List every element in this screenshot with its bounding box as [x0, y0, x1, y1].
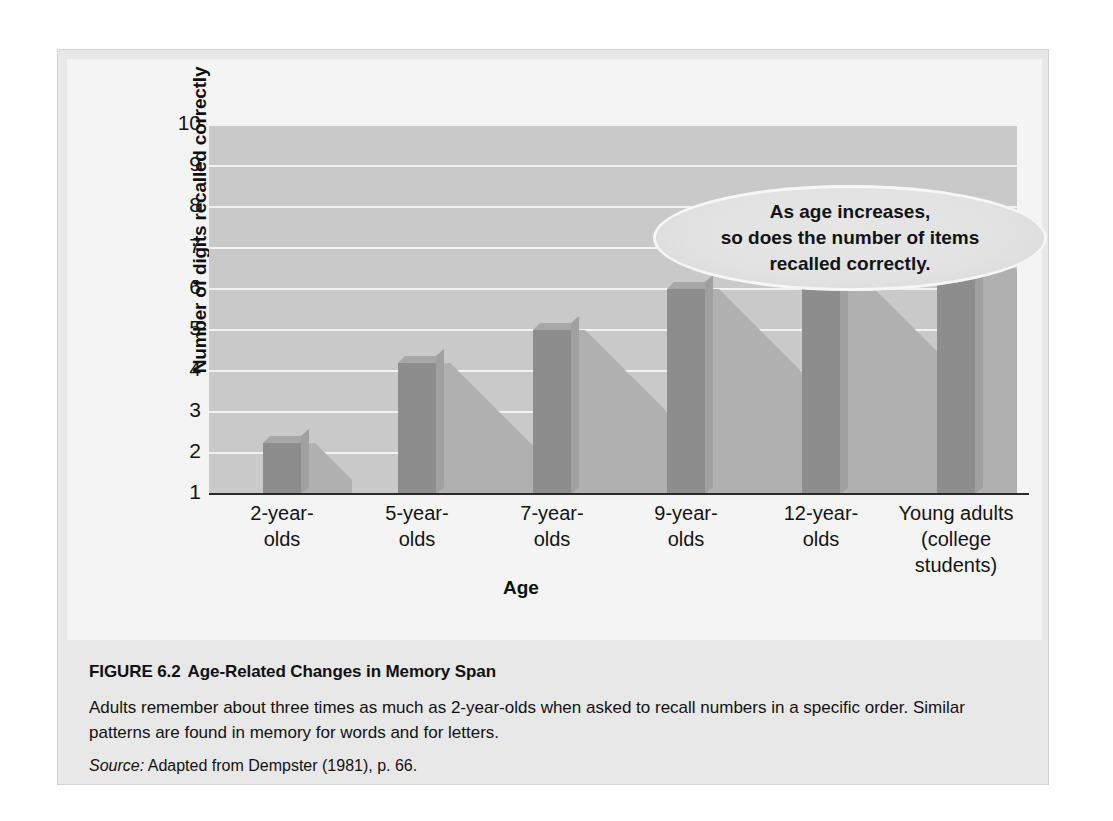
bar-side-face	[436, 349, 444, 494]
figure-caption: FIGURE 6.2Age-Related Changes in Memory …	[67, 648, 1042, 777]
x-axis-line	[209, 493, 1029, 495]
annotation-callout: As age increases, so does the number of …	[653, 185, 1047, 291]
figure-screenshot: Number of digits recalled correctly 1098…	[0, 0, 1113, 821]
gridline	[209, 125, 1017, 126]
y-tick-label: 2	[171, 439, 201, 463]
bar-side-face	[301, 429, 309, 494]
bar	[802, 269, 840, 495]
x-tick-label: Young adults(collegestudents)	[876, 500, 1036, 578]
source-label: Source:	[89, 757, 144, 774]
figure-number: FIGURE 6.2	[89, 662, 181, 681]
y-tick-label: 6	[171, 275, 201, 299]
y-tick-label: 9	[171, 152, 201, 176]
annotation-text: As age increases, so does the number of …	[721, 199, 980, 277]
bar	[533, 330, 571, 494]
x-axis-tick-labels: 2-year-olds5-year-olds7-year-olds9-year-…	[209, 500, 1029, 610]
x-axis-title: Age	[503, 577, 539, 599]
x-tick-label-line: (college	[876, 526, 1036, 552]
y-tick-label: 8	[171, 193, 201, 217]
figure-title: Age-Related Changes in Memory Span	[188, 662, 496, 681]
annotation-line-1: As age increases,	[721, 199, 980, 225]
y-tick-label: 5	[171, 316, 201, 340]
bar-side-face	[705, 275, 713, 494]
caption-source: Source: Adapted from Dempster (1981), p.…	[89, 757, 1020, 775]
y-tick-label: 4	[171, 357, 201, 381]
bar-side-face	[571, 316, 579, 494]
caption-body: Adults remember about three times as muc…	[89, 695, 1014, 745]
x-tick-label-line: students)	[876, 552, 1036, 578]
bar	[398, 363, 436, 494]
y-tick-label: 3	[171, 398, 201, 422]
plot-background	[209, 125, 1017, 494]
y-tick-label: 10	[171, 111, 201, 135]
annotation-line-2: so does the number of items	[721, 225, 980, 251]
x-tick-label-line: Young adults	[876, 500, 1036, 526]
y-tick-label: 7	[171, 234, 201, 258]
figure-card: Number of digits recalled correctly 1098…	[57, 49, 1049, 785]
bar	[667, 289, 705, 494]
bar	[263, 443, 301, 494]
gridline	[209, 165, 1017, 167]
y-tick-label: 1	[171, 480, 201, 504]
caption-title-row: FIGURE 6.2Age-Related Changes in Memory …	[89, 662, 1020, 682]
source-text: Adapted from Dempster (1981), p. 66.	[148, 757, 417, 774]
chart-panel: Number of digits recalled correctly 1098…	[67, 59, 1042, 640]
plot-area	[209, 125, 1017, 494]
annotation-line-3: recalled correctly.	[721, 251, 980, 277]
y-axis-tick-labels: 10987654321	[167, 125, 201, 494]
